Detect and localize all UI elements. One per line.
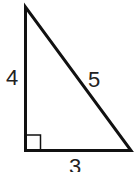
triangle-outline <box>26 7 132 151</box>
right-triangle-diagram <box>0 0 136 172</box>
hypotenuse-label: 5 <box>88 69 100 91</box>
bottom-leg-label: 3 <box>69 156 81 172</box>
left-leg-label: 4 <box>6 67 18 89</box>
right-angle-marker <box>26 135 41 151</box>
